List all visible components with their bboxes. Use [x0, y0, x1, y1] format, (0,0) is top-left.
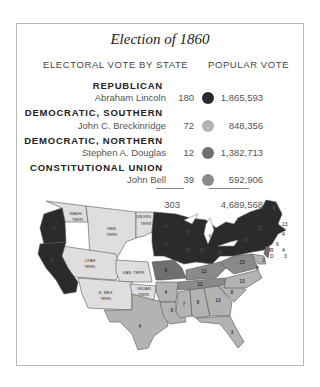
party-republican: REPUBLICAN — [93, 80, 163, 91]
svg-text:4: 4 — [51, 257, 54, 263]
svg-text:5: 5 — [187, 229, 190, 235]
electoral-breckinridge: 72 — [172, 120, 194, 131]
us-election-map: WASH.TERR. NEB.TERR. UNORG.TERR UTAHTERR… — [20, 198, 300, 360]
svg-text:13: 13 — [199, 247, 205, 253]
svg-text:6: 6 — [209, 233, 212, 239]
svg-text:UNORG.: UNORG. — [136, 214, 152, 219]
svg-text:3: 3 — [262, 257, 265, 263]
svg-text:8: 8 — [273, 205, 276, 211]
svg-text:TERR.: TERR. — [72, 217, 84, 222]
electoral-total-rule — [156, 188, 184, 189]
candidate-douglas: Stephen A. Douglas — [82, 147, 166, 158]
svg-text:11: 11 — [185, 247, 190, 253]
legend-dot-southern-democrat — [202, 120, 214, 132]
electoral-vote-header: ELECTORAL VOTE BY STATE — [43, 59, 188, 70]
svg-text:10: 10 — [215, 297, 221, 303]
candidate-breckinridge: John C. Breckinridge — [78, 120, 166, 131]
svg-text:TERR.: TERR. — [106, 232, 118, 237]
svg-text:23: 23 — [217, 249, 223, 255]
svg-text:3: 3 — [53, 225, 56, 231]
svg-text:N. MEX.: N. MEX. — [99, 290, 114, 295]
party-constitutional-union: CONSTITUTIONAL UNION — [30, 162, 163, 173]
svg-text:7: 7 — [183, 301, 186, 307]
florida — [196, 316, 244, 348]
svg-text:3: 3 — [231, 329, 234, 335]
svg-text:D: D — [270, 253, 274, 259]
popular-vote-header: POPULAR VOTE — [208, 59, 289, 70]
svg-text:9: 9 — [165, 267, 168, 273]
svg-text:4: 4 — [165, 241, 168, 247]
svg-text:4: 4 — [139, 323, 142, 329]
map-title: Election of 1860 — [17, 31, 303, 48]
svg-text:KAN. TERR.: KAN. TERR. — [123, 270, 145, 275]
legend-dot-constitutional-union — [202, 174, 214, 186]
svg-text:TERR: TERR — [141, 221, 152, 226]
party-southern-democrat: DEMOCRATIC, SOUTHERN — [25, 107, 163, 118]
svg-text:INDIAN: INDIAN — [137, 286, 151, 291]
svg-text:12: 12 — [201, 268, 207, 274]
popular-douglas: 1,382,713 — [221, 147, 263, 158]
svg-text:27: 27 — [257, 225, 263, 231]
party-northern-democrat: DEMOCRATIC, NORTHERN — [24, 135, 163, 146]
svg-text:12: 12 — [197, 281, 203, 287]
svg-text:4: 4 — [165, 289, 168, 295]
svg-text:TERR.: TERR. — [100, 296, 112, 301]
popular-breckinridge: 848,356 — [229, 120, 263, 131]
svg-text:4: 4 — [165, 223, 168, 229]
legend-dot-republican — [202, 92, 214, 104]
svg-text:9: 9 — [197, 299, 200, 305]
svg-text:4: 4 — [282, 231, 285, 237]
legend-dot-northern-democrat — [202, 147, 214, 159]
svg-text:27: 27 — [243, 237, 249, 243]
candidate-lincoln: Abraham Lincoln — [95, 92, 166, 103]
svg-text:8: 8 — [231, 289, 234, 295]
svg-text:8: 8 — [256, 265, 259, 271]
popular-total-rule — [209, 188, 249, 189]
svg-text:13: 13 — [282, 221, 288, 227]
svg-text:10: 10 — [239, 278, 245, 284]
svg-text:15: 15 — [239, 259, 245, 265]
candidate-bell: John Bell — [127, 174, 166, 185]
electoral-douglas: 12 — [172, 147, 194, 158]
svg-text:UTAH: UTAH — [85, 258, 96, 263]
svg-text:WASH.: WASH. — [70, 211, 83, 216]
popular-lincoln: 1,865,593 — [221, 92, 263, 103]
svg-text:NEB.: NEB. — [107, 226, 116, 231]
svg-text:6: 6 — [171, 307, 174, 313]
popular-bell: 592,906 — [229, 174, 263, 185]
svg-text:3: 3 — [284, 253, 287, 259]
electoral-bell: 39 — [172, 174, 194, 185]
svg-text:TERR.: TERR. — [138, 292, 150, 297]
svg-text:6: 6 — [276, 241, 279, 247]
electoral-lincoln: 180 — [172, 92, 194, 103]
svg-text:TERR.: TERR. — [84, 264, 96, 269]
